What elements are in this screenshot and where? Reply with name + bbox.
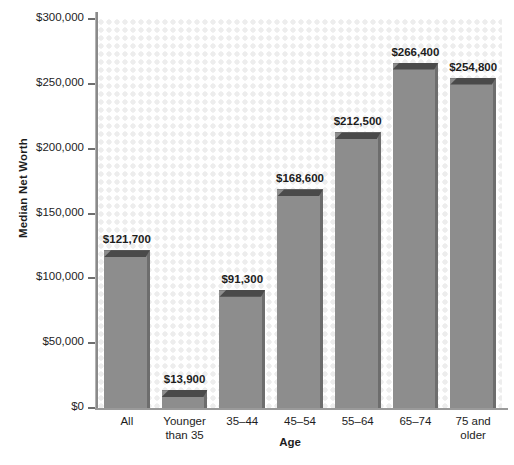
- bar-chart: Median Net Worth $0$50,000$100,000$150,0…: [0, 0, 514, 465]
- bar-7: $254,800: [450, 78, 496, 408]
- y-axis-tick-label: $100,000: [0, 270, 84, 282]
- x-axis-line: [95, 408, 508, 410]
- bar-top-bevel: [450, 78, 496, 85]
- bar-value-label: $13,900: [164, 373, 206, 385]
- y-axis-tick-label: $150,000: [0, 206, 84, 218]
- bar-6: $266,400: [393, 63, 439, 408]
- x-axis-tick-label-line: 75 and: [431, 414, 514, 428]
- bar-body: [277, 189, 323, 408]
- bar-value-label: $266,400: [391, 46, 439, 58]
- bar-4: $168,600: [277, 189, 323, 408]
- bar-value-label: $168,600: [276, 172, 324, 184]
- bar-top-bevel: [335, 132, 381, 139]
- bar-2: $13,900: [162, 390, 208, 408]
- bar-value-label: $254,800: [449, 61, 497, 73]
- bar-5: $212,500: [335, 132, 381, 408]
- bar-1: $121,700: [104, 250, 150, 408]
- bar-body: [450, 78, 496, 408]
- bar-3: $91,300: [219, 290, 265, 408]
- x-axis-tick-label: 75 andolder: [431, 414, 514, 442]
- bar-value-label: $121,700: [103, 233, 151, 245]
- x-axis-tick-label-line: than 35: [143, 428, 227, 442]
- bar-top-bevel: [162, 390, 208, 397]
- bar-top-bevel: [219, 290, 265, 297]
- bar-body: [393, 63, 439, 408]
- bar-body: [219, 290, 265, 408]
- y-axis-tick-label: $250,000: [0, 76, 84, 88]
- y-axis-tick-label: $0: [0, 400, 84, 412]
- y-axis-tick-label: $50,000: [0, 335, 84, 347]
- bar-body: [335, 132, 381, 408]
- bar-value-label: $212,500: [334, 115, 382, 127]
- bar-value-label: $91,300: [221, 273, 263, 285]
- y-axis-title: Median Net Worth: [17, 118, 29, 258]
- bar-top-bevel: [277, 189, 323, 196]
- plot-area: $121,700$13,900$91,300$168,600$212,500$2…: [98, 19, 502, 408]
- bar-body: [104, 250, 150, 408]
- x-axis-tick-label-line: older: [431, 428, 514, 442]
- bar-top-bevel: [393, 63, 439, 70]
- bar-top-bevel: [104, 250, 150, 257]
- x-axis-title: Age: [258, 436, 322, 448]
- y-axis-tick-label: $300,000: [0, 11, 84, 23]
- y-axis-tick-label: $200,000: [0, 141, 84, 153]
